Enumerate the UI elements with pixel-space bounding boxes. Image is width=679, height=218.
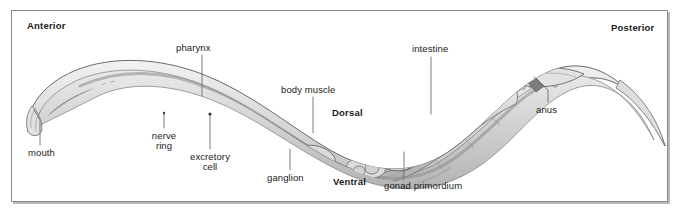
- label-body-muscle: body muscle: [281, 85, 335, 96]
- label-intestine: intestine: [412, 44, 448, 55]
- label-gonad-primordium: gonad primordium: [384, 181, 462, 192]
- label-ventral: Ventral: [333, 177, 366, 188]
- label-ganglion: ganglion: [267, 173, 304, 184]
- label-pharynx: pharynx: [176, 43, 211, 54]
- leader-endpoint-dots: [163, 112, 212, 116]
- worm-inner-cavity: [36, 70, 654, 189]
- worm-body: [27, 60, 665, 188]
- label-anterior: Anterior: [27, 21, 66, 32]
- tail-tip: [616, 80, 665, 146]
- label-posterior: Posterior: [611, 23, 655, 34]
- label-nerve-ring-line2: ring: [140, 141, 188, 152]
- label-excretory-cell-line2: cell: [177, 162, 243, 173]
- label-dorsal: Dorsal: [332, 108, 363, 119]
- label-mouth: mouth: [28, 148, 55, 159]
- label-anus: anus: [536, 105, 557, 116]
- figure-root: Anterior Posterior Dorsal Ventral mouth …: [0, 0, 679, 218]
